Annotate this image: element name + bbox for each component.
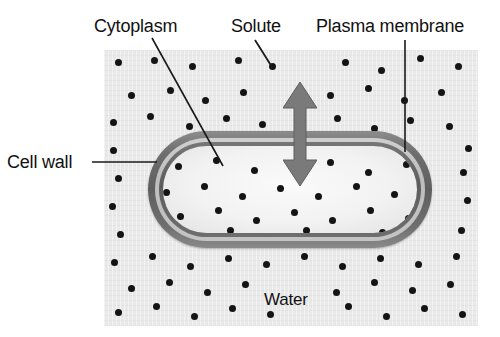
solute-dot — [242, 281, 249, 288]
solute-dot — [263, 261, 270, 268]
solute-dot — [202, 97, 209, 104]
osmosis-diagram: Cytoplasm Solute Plasma membrane Cell wa… — [0, 0, 500, 337]
solute-dot — [177, 213, 184, 220]
solute-dot — [240, 89, 247, 96]
label-plasma-membrane: Plasma membrane — [316, 16, 464, 36]
solute-dot — [251, 167, 258, 174]
solute-dot — [267, 311, 274, 318]
solute-dot — [455, 63, 462, 70]
solute-dot — [117, 231, 124, 238]
solute-dot — [459, 311, 466, 318]
solute-dot — [465, 145, 472, 152]
solute-dot — [334, 115, 341, 122]
solute-dot — [379, 229, 386, 233]
solute-dot — [415, 261, 422, 268]
solute-dot — [259, 121, 266, 128]
solute-dot — [345, 303, 352, 310]
solute-dot — [353, 183, 360, 190]
solute-dot — [229, 305, 236, 312]
solute-dot — [403, 161, 410, 168]
label-cell-wall: Cell wall — [7, 152, 72, 172]
osmosis-arrow — [283, 82, 317, 186]
solute-dot — [111, 259, 118, 266]
solute-dot — [110, 119, 117, 126]
solute-dot — [447, 281, 454, 288]
solute-dot — [253, 217, 260, 224]
solute-dot — [215, 207, 222, 214]
solute-dot — [365, 169, 372, 176]
solute-dot — [401, 97, 408, 104]
solute-dot — [446, 123, 453, 130]
solute-dot — [277, 185, 284, 192]
solute-dot — [147, 113, 154, 120]
solute-dot — [342, 59, 349, 66]
solute-dot — [421, 305, 428, 312]
label-water: Water — [264, 290, 308, 310]
solute-dot — [458, 227, 465, 234]
solute-dot — [464, 197, 471, 204]
solute-dot — [291, 209, 298, 216]
solute-dot — [365, 85, 372, 92]
solute-dot — [315, 193, 322, 200]
solute-dot — [339, 263, 346, 270]
solute-dot — [204, 289, 211, 296]
solute-dot — [371, 279, 378, 286]
solute-dot — [128, 285, 135, 292]
solute-dot — [239, 193, 246, 200]
solute-dot — [327, 92, 334, 99]
solute-dot — [333, 289, 340, 296]
solute-dot — [128, 92, 135, 99]
solute-dot — [301, 253, 308, 260]
solute-dot — [438, 89, 445, 96]
solute-dot — [191, 313, 198, 320]
solute-dot — [391, 191, 398, 198]
label-solute: Solute — [231, 16, 281, 36]
solute-dot — [407, 117, 414, 124]
solute-dot — [166, 279, 173, 286]
solute-dot — [367, 207, 374, 214]
solute-dot — [303, 227, 310, 233]
solute-dot — [225, 255, 232, 262]
solute-dot — [163, 189, 170, 196]
solute-dot — [269, 63, 276, 70]
label-cytoplasm: Cytoplasm — [94, 16, 177, 36]
solute-dot — [115, 59, 122, 66]
solute-dot — [377, 255, 384, 262]
solute-dot — [167, 87, 174, 94]
solute-dot — [329, 217, 336, 224]
solute-dot — [378, 67, 385, 74]
solute-dot — [383, 313, 390, 320]
solute-dot — [115, 309, 122, 316]
solute-dot — [417, 55, 424, 62]
solute-dot — [110, 147, 117, 154]
solute-dot — [235, 57, 242, 64]
solute-dot — [327, 159, 334, 166]
solute-dot — [151, 57, 158, 64]
solute-dot — [223, 115, 230, 122]
solute-dot — [149, 253, 156, 260]
solute-dot — [115, 175, 122, 182]
solute-dot — [453, 253, 460, 260]
solute-dot — [405, 215, 412, 222]
solute-dot — [409, 287, 416, 294]
solute-dot — [109, 203, 116, 210]
solute-dot — [186, 123, 193, 130]
solute-dot — [201, 183, 208, 190]
solute-dot — [227, 227, 234, 233]
solute-dot — [187, 263, 194, 270]
solute-dot — [153, 303, 160, 310]
solute-dot — [189, 63, 196, 70]
solute-dot — [175, 163, 182, 170]
solute-dot — [460, 169, 467, 176]
solute-dot — [213, 157, 220, 164]
